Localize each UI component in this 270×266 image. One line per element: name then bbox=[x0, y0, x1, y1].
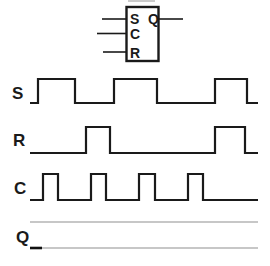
waveform-trace-s bbox=[30, 79, 258, 103]
waveform-label-r: R bbox=[13, 131, 25, 150]
waveform-row-r: R bbox=[13, 127, 258, 153]
timing-diagram-worksheet: S C R Q S R C Q bbox=[0, 0, 270, 266]
waveform-label-q: Q bbox=[16, 228, 29, 247]
flipflop-pin-label-q: Q bbox=[148, 11, 159, 27]
flipflop-symbol: S C R Q bbox=[97, 7, 183, 61]
timing-diagram-canvas: S C R Q S R C Q bbox=[0, 0, 270, 266]
waveform-label-s: S bbox=[12, 84, 23, 103]
waveform-row-q: Q bbox=[16, 222, 258, 248]
waveform-row-s: S bbox=[12, 79, 258, 103]
flipflop-pin-label-c: C bbox=[130, 26, 140, 42]
waveform-label-c: C bbox=[14, 179, 26, 198]
flipflop-pin-label-s: S bbox=[130, 11, 139, 27]
flipflop-pin-label-r: R bbox=[130, 45, 140, 61]
waveform-row-c: C bbox=[14, 174, 258, 200]
waveform-trace-r bbox=[30, 127, 258, 153]
waveform-trace-c bbox=[30, 174, 258, 200]
